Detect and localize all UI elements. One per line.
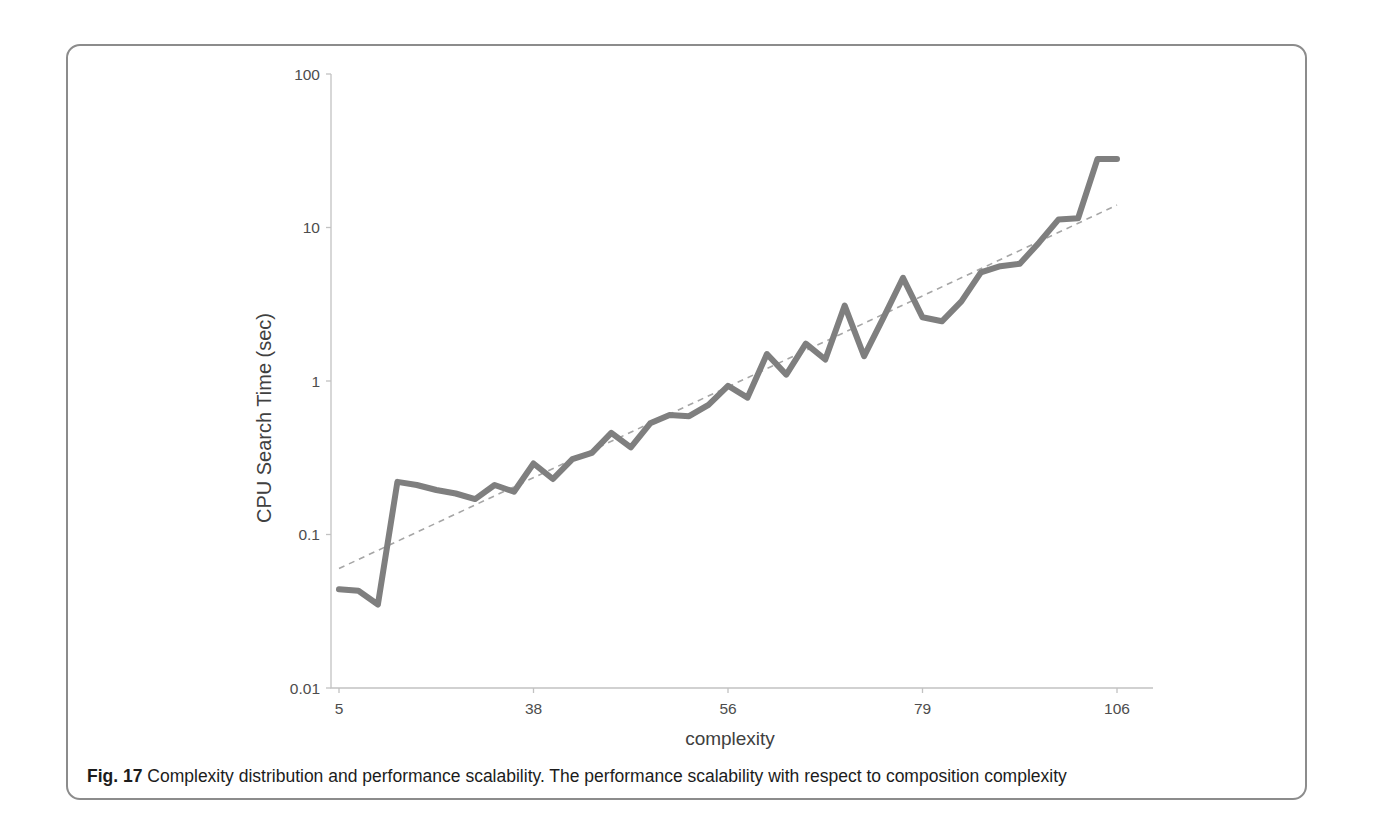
y-tick-label: 0.01: [290, 680, 320, 697]
figure-caption: Fig. 17 Complexity distribution and perf…: [87, 765, 1282, 787]
x-tick-label: 38: [525, 700, 542, 717]
x-tick-label: 56: [719, 700, 736, 717]
x-tick-label: 106: [1104, 700, 1130, 717]
figure-panel: 1001010.10.015385679106 CPU Search Time …: [66, 44, 1307, 800]
data-line: [339, 159, 1117, 605]
caption-label: Fig. 17: [87, 766, 142, 786]
x-tick-label: 79: [914, 700, 931, 717]
y-axis-title: CPU Search Time (sec): [253, 258, 279, 578]
x-tick-label: 5: [335, 700, 344, 717]
y-tick-label: 10: [303, 219, 321, 236]
y-tick-label: 0.1: [298, 526, 320, 543]
x-axis-title: complexity: [580, 728, 880, 750]
y-tick-label: 1: [311, 373, 320, 390]
y-tick-label: 100: [294, 66, 320, 83]
caption-text: Complexity distribution and performance …: [147, 766, 1066, 786]
